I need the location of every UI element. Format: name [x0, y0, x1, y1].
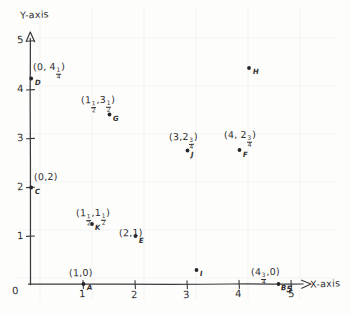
point-name-B-subscript: 5 — [286, 284, 293, 294]
coord-y-whole-J: 2 — [182, 131, 188, 142]
x-tick-label-4: 4 — [235, 289, 242, 299]
x-tick-label-2: 2 — [131, 290, 138, 300]
point-name-J: J — [191, 152, 194, 159]
point-name-C: C — [35, 189, 40, 196]
point-name-I: I — [200, 271, 203, 278]
y-axis-title: Y-axis — [20, 9, 49, 20]
worksheet-page: Y-axis X-axis 0 1 2 3 4 5 1 2 3 4 5 (0, … — [0, 0, 350, 314]
comma: , — [43, 61, 46, 72]
coord-y-whole-D: 4 — [49, 61, 55, 72]
paren-close: ) — [54, 171, 58, 182]
coord-y-whole-K: 1 — [95, 207, 101, 218]
x-tick-label-3: 3 — [183, 290, 190, 300]
point-dot-I — [195, 268, 199, 272]
point-name-D: D — [35, 80, 41, 87]
point-name-F: F — [243, 152, 248, 159]
point-name-H: H — [253, 69, 259, 76]
coord-y-whole-F: 2 — [240, 129, 246, 140]
paren-close: ) — [111, 94, 115, 105]
paren-close: ) — [194, 131, 198, 142]
paren-close: ) — [61, 61, 65, 72]
x-axis-title: X-axis — [310, 278, 341, 289]
point-coord-label-J: (3,234) — [169, 132, 198, 151]
origin-label: 0 — [12, 286, 19, 296]
coord-x-whole-B: 4 — [255, 266, 261, 277]
point-dot-C — [29, 186, 33, 190]
coord-y-whole-G: 3 — [100, 94, 106, 105]
point-name-E: E — [139, 238, 144, 245]
fraction-denominator: 2 — [106, 106, 111, 113]
fraction-denominator: 4 — [261, 279, 266, 286]
coordinate-plane — [0, 0, 350, 314]
coord-x-whole-K: 1 — [80, 207, 86, 218]
point-coord-label-K: (112,112) — [76, 208, 111, 227]
point-coord-label-F: (4, 234) — [224, 130, 257, 149]
fraction-denominator: 4 — [189, 144, 194, 151]
y-tick-label-3: 3 — [17, 133, 24, 143]
point-coord-label-C: (0,2) — [34, 172, 58, 182]
fraction-denominator: 4 — [56, 74, 61, 81]
x-tick-label-1: 1 — [79, 289, 86, 299]
point-coord-label-B: (434,0) — [251, 267, 280, 286]
point-name-B: B5 — [281, 285, 293, 295]
y-tick-label-1: 1 — [17, 231, 24, 241]
paren-close: ) — [89, 267, 93, 278]
point-dot-H — [247, 66, 251, 70]
paren-close: ) — [276, 266, 280, 277]
fraction-denominator: 4 — [247, 142, 252, 149]
point-dot-A — [82, 282, 86, 286]
paren-close: ) — [106, 207, 110, 218]
point-name-K: K — [95, 225, 101, 232]
fraction-denominator: 2 — [86, 220, 91, 227]
paren-close: ) — [252, 129, 256, 140]
point-name-G: G — [113, 116, 119, 123]
point-name-A: A — [87, 285, 93, 292]
point-coord-label-G: (112,312) — [81, 95, 116, 114]
y-tick-label-2: 2 — [17, 182, 24, 192]
plotted-points — [29, 66, 280, 286]
fraction-denominator: 2 — [101, 219, 106, 226]
y-tick-label-5: 5 — [17, 35, 24, 45]
point-coord-label-A: (1,0) — [69, 268, 93, 278]
y-tick-label-4: 4 — [17, 84, 24, 94]
coord-x-whole-G: 1 — [85, 94, 91, 105]
comma: , — [234, 129, 237, 140]
fraction-denominator: 2 — [91, 107, 96, 114]
